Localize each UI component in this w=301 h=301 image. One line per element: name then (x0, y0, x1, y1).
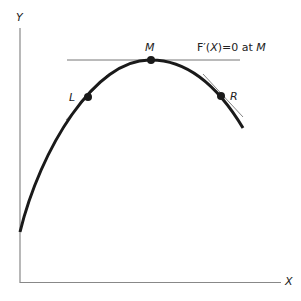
point-left-label: L (69, 92, 75, 103)
point-left (84, 93, 92, 101)
curve (20, 60, 243, 232)
y-axis-label: Y (16, 12, 23, 23)
point-max (147, 56, 155, 64)
point-right (217, 92, 225, 100)
diagram: Y X L M R F′(X)=0 at M (0, 0, 301, 301)
derivative-annotation: F′(X)=0 at M (197, 42, 266, 53)
x-axis-label: X (285, 276, 293, 287)
point-right-label: R (230, 91, 238, 102)
point-max-label: M (145, 42, 155, 53)
